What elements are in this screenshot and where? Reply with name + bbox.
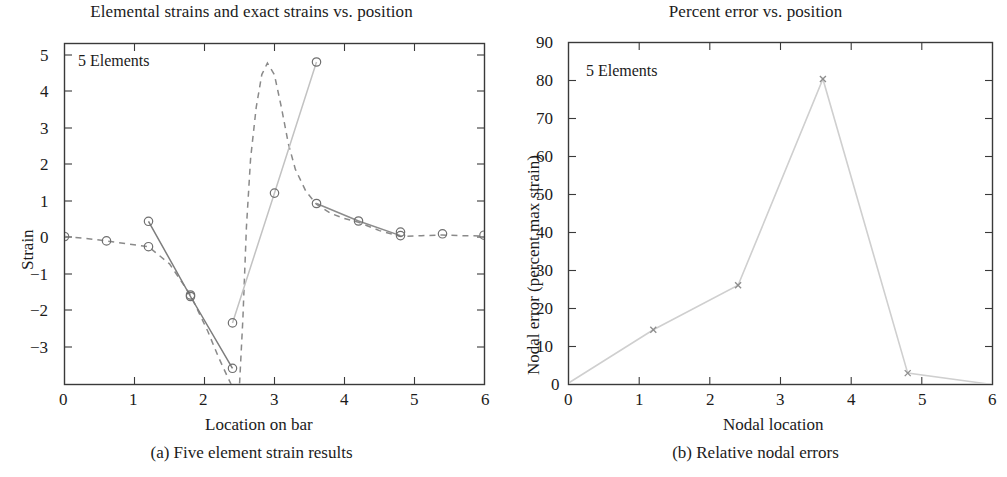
- panel-a-data-markers: [60, 58, 488, 373]
- panel-b-error-plot: Percent error vs. position Nodal error (…: [504, 0, 1007, 477]
- panel-b-plot-area: [504, 0, 1007, 477]
- panel-a-caption: (a) Five element strain results: [0, 443, 503, 463]
- panel-a-axes-frame: [65, 44, 485, 385]
- panel-a-elemental-segment-3: [317, 204, 401, 236]
- panel-b-axes-frame: [569, 43, 993, 385]
- figure-container: Elemental strains and exact strains vs. …: [0, 0, 1007, 477]
- panel-b-x-ticks: [639, 43, 922, 385]
- panel-b-nodal-error-curve: [569, 79, 993, 385]
- panel-a-y-ticks: [65, 55, 485, 347]
- panel-a-x-ticks: [135, 44, 415, 385]
- panel-a-strain-plot: Elemental strains and exact strains vs. …: [0, 0, 503, 477]
- panel-a-plot-area: [0, 0, 503, 477]
- panel-a-elemental-segment-2: [233, 62, 317, 323]
- panel-a-elemental-segment-1: [149, 221, 233, 368]
- panel-a-exact-strain-curve: [65, 63, 485, 391]
- panel-b-y-ticks: [569, 81, 993, 347]
- panel-b-caption: (b) Relative nodal errors: [504, 443, 1007, 463]
- panel-b-data-markers: [650, 76, 910, 376]
